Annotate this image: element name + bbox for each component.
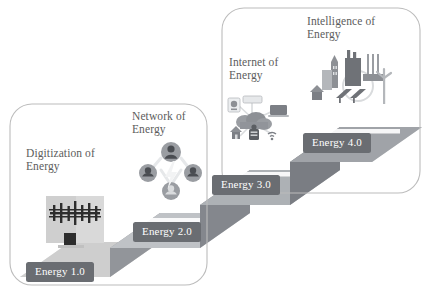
people-network-icon: [139, 142, 202, 200]
step-4-heading: Intelligence of Energy: [307, 15, 375, 41]
diagram-canvas: Digitization of Energy Network of Energy…: [0, 0, 427, 292]
step-3-heading: Internet of Energy: [229, 56, 278, 82]
stage-badge-energy-2[interactable]: Energy 2.0: [133, 222, 201, 242]
iot-cloud-icon: [228, 96, 289, 140]
step-2-heading: Network of Energy: [132, 110, 186, 136]
stage-badge-energy-4[interactable]: Energy 4.0: [303, 133, 371, 153]
stage-badge-energy-1[interactable]: Energy 1.0: [26, 262, 94, 282]
smart-city-icon: [310, 50, 391, 104]
stage-badge-energy-3[interactable]: Energy 3.0: [212, 175, 280, 195]
step-1-heading: Digitization of Energy: [26, 147, 95, 173]
